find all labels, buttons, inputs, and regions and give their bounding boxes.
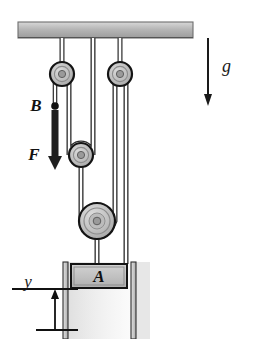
force-label: F — [27, 145, 40, 164]
gravity-label: g — [222, 56, 231, 76]
diagram-canvas: A B F g y — [0, 0, 253, 339]
pulley-middle — [69, 143, 93, 167]
force-arrow-icon — [48, 110, 62, 170]
pulley-upper-left — [50, 62, 74, 86]
pulley-upper-right — [108, 62, 132, 86]
gravity-arrow-icon — [204, 38, 212, 106]
point-b-marker — [51, 102, 59, 110]
height-label: y — [22, 272, 32, 291]
block-a: A — [71, 264, 127, 288]
pulley-lower-large — [79, 203, 115, 239]
pulley-system-figure: A B F g y — [0, 0, 253, 339]
ceiling-support — [18, 22, 193, 38]
rope-middle-loop — [69, 38, 93, 155]
point-b-label: B — [29, 96, 41, 115]
guide-rail-left — [63, 262, 68, 339]
up-arrow-icon — [51, 289, 59, 299]
guide-rail-right — [131, 262, 136, 339]
block-a-label: A — [92, 267, 104, 286]
